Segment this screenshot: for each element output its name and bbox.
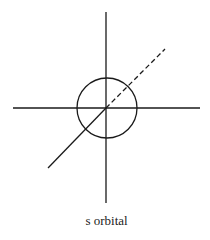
s-orbital-diagram — [0, 0, 210, 240]
z-axis-front — [48, 108, 106, 168]
diagram-caption: s orbital — [0, 213, 210, 229]
